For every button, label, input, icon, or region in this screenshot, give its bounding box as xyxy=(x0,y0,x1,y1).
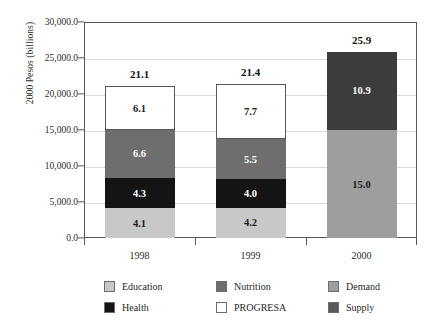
legend-label: Education xyxy=(122,281,163,292)
bars-layer: 4.14.36.66.121.14.24.05.57.721.415.010.9… xyxy=(84,22,417,238)
y-tick-label: 20,000.0 xyxy=(6,89,78,99)
bar-total-label-1998: 21.1 xyxy=(90,68,190,80)
legend-swatch-health xyxy=(104,302,115,313)
legend-label: Supply xyxy=(346,302,374,313)
legend-item-progresa[interactable]: PROGRESA xyxy=(216,302,328,313)
legend-item-demand[interactable]: Demand xyxy=(328,281,420,292)
y-tick-label: 15,000.0 xyxy=(6,125,78,135)
x-tick-mark xyxy=(84,238,85,245)
legend-label: PROGRESA xyxy=(234,302,286,313)
y-tick-label: 25,000.0 xyxy=(6,53,78,63)
chart-legend: EducationNutritionDemandHealthPROGRESASu… xyxy=(104,276,420,318)
legend-item-health[interactable]: Health xyxy=(104,302,216,313)
y-tick-label: 0.0 xyxy=(6,233,78,243)
bar-segment-nutrition[interactable]: 6.6 xyxy=(105,130,175,178)
bar-segment-nutrition[interactable]: 5.5 xyxy=(216,139,286,179)
x-tick-label-1998: 1998 xyxy=(95,250,185,261)
y-tick-label: 30,000.0 xyxy=(6,17,78,27)
bar-segment-health[interactable]: 4.0 xyxy=(216,179,286,208)
stacked-bar-chart: 2000 Pesos (billions) 0.05,000.010,000.0… xyxy=(0,0,439,335)
bar-segment-education[interactable]: 4.1 xyxy=(105,208,175,238)
x-tick-label-2000: 2000 xyxy=(317,250,407,261)
bar-segment-progresa[interactable]: 6.1 xyxy=(105,86,175,130)
legend-swatch-progresa xyxy=(216,302,227,313)
legend-item-nutrition[interactable]: Nutrition xyxy=(216,281,328,292)
legend-label: Demand xyxy=(346,281,380,292)
bar-group-1999[interactable]: 4.24.05.57.7 xyxy=(216,84,286,238)
legend-label: Health xyxy=(122,302,149,313)
bar-group-1998[interactable]: 4.14.36.66.1 xyxy=(105,86,175,238)
legend-swatch-nutrition xyxy=(216,281,227,292)
legend-item-supply[interactable]: Supply xyxy=(328,302,420,313)
bar-segment-progresa[interactable]: 7.7 xyxy=(216,84,286,139)
x-tick-label-1999: 1999 xyxy=(206,250,296,261)
legend-label: Nutrition xyxy=(234,281,271,292)
legend-swatch-education xyxy=(104,281,115,292)
y-tick-label: 10,000.0 xyxy=(6,161,78,171)
bar-segment-demand[interactable]: 15.0 xyxy=(327,130,397,238)
x-tick-mark xyxy=(195,238,196,245)
y-tick-label: 5,000.0 xyxy=(6,197,78,207)
legend-swatch-demand xyxy=(328,281,339,292)
bar-segment-education[interactable]: 4.2 xyxy=(216,208,286,238)
bar-total-label-1999: 21.4 xyxy=(201,66,301,78)
x-tick-mark xyxy=(306,238,307,245)
legend-swatch-supply xyxy=(328,302,339,313)
x-tick-mark xyxy=(416,238,417,245)
bar-segment-supply[interactable]: 10.9 xyxy=(327,52,397,130)
bar-group-2000[interactable]: 15.010.9 xyxy=(327,52,397,238)
bar-segment-health[interactable]: 4.3 xyxy=(105,178,175,209)
legend-item-education[interactable]: Education xyxy=(104,281,216,292)
bar-total-label-2000: 25.9 xyxy=(312,34,412,46)
